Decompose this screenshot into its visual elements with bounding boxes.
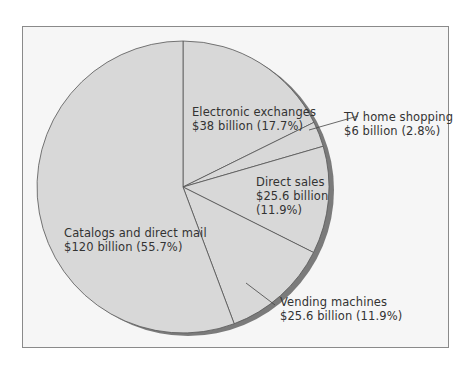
label-catalogs-direct-mail: Catalogs and direct mail $120 billion (5… bbox=[64, 226, 207, 254]
label-electronic-exchanges: Electronic exchanges $38 billion (17.7%) bbox=[192, 105, 316, 133]
label-tv-value: $6 billion (2.8%) bbox=[344, 124, 453, 138]
label-vending-machines: Vending machines $25.6 billion (11.9%) bbox=[280, 295, 402, 323]
label-direct-name: Direct sales bbox=[256, 175, 328, 189]
label-electronic-value: $38 billion (17.7%) bbox=[192, 119, 316, 133]
label-catalogs-value: $120 billion (55.7%) bbox=[64, 240, 207, 254]
label-vending-value: $25.6 billion (11.9%) bbox=[280, 309, 402, 323]
label-vending-name: Vending machines bbox=[280, 295, 402, 309]
label-electronic-name: Electronic exchanges bbox=[192, 105, 316, 119]
label-direct-percent: (11.9%) bbox=[256, 203, 328, 217]
label-tv-name: TV home shopping bbox=[344, 110, 453, 124]
label-tv-home-shopping: TV home shopping $6 billion (2.8%) bbox=[344, 110, 453, 138]
label-direct-sales: Direct sales $25.6 billion (11.9%) bbox=[256, 175, 328, 217]
label-catalogs-name: Catalogs and direct mail bbox=[64, 226, 207, 240]
label-direct-value: $25.6 billion bbox=[256, 189, 328, 203]
